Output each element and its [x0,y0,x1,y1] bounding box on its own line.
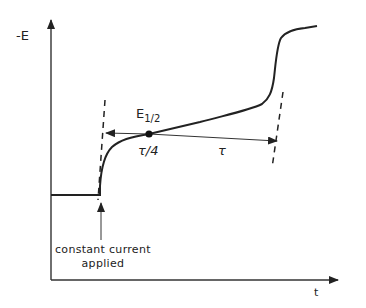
half-wave-label: E1/2 [136,106,160,124]
time-span-arrow [106,133,149,134]
potential-curve [51,26,317,195]
half-wave-label-main: E [136,106,144,121]
time-span-arrow-right [149,134,277,141]
current-applied-note: constant current applied [55,243,151,271]
right-dashed-line [272,92,283,168]
x-axis-label: t [314,286,318,299]
note-line-1: constant current [55,243,151,257]
note-line-2: applied [55,257,151,271]
y-axis-label: -E [16,28,29,43]
quarter-time-label: τ/4 [138,143,158,158]
half-wave-point [145,130,152,137]
left-dashed-line [98,100,105,200]
half-wave-label-sub: 1/2 [144,113,160,124]
transition-time-label: τ [218,143,226,158]
